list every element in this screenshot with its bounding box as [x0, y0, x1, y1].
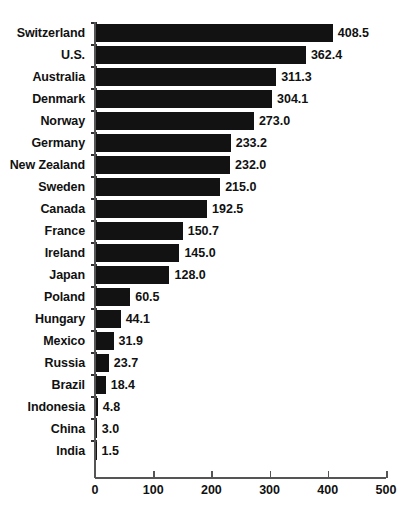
- bar: [95, 376, 106, 394]
- x-axis-tick: [328, 471, 330, 478]
- bar-value-label: 408.5: [338, 22, 369, 44]
- bar-row: Mexico31.9: [0, 330, 409, 352]
- category-label: New Zealand: [0, 154, 85, 176]
- bar-row: India1.5: [0, 440, 409, 462]
- bar-row: U.S.362.4: [0, 44, 409, 66]
- bar-value-label: 215.0: [225, 176, 256, 198]
- bar-row: Germany233.2: [0, 132, 409, 154]
- bar-row: France150.7: [0, 220, 409, 242]
- bar-row: Australia311.3: [0, 66, 409, 88]
- plot-area: Switzerland408.5U.S.362.4Australia311.3D…: [0, 22, 409, 477]
- bar: [95, 46, 306, 64]
- bar: [95, 244, 179, 262]
- category-label: India: [0, 440, 85, 462]
- x-axis-tick-label: 200: [181, 483, 241, 497]
- bar-row: Denmark304.1: [0, 88, 409, 110]
- bar-chart-figure: Switzerland408.5U.S.362.4Australia311.3D…: [0, 0, 409, 525]
- bar-value-label: 311.3: [281, 66, 312, 88]
- bar-value-label: 18.4: [111, 374, 135, 396]
- bar: [95, 310, 121, 328]
- bar-row: Indonesia4.8: [0, 396, 409, 418]
- bar-row: Norway273.0: [0, 110, 409, 132]
- category-label: Ireland: [0, 242, 85, 264]
- category-label: U.S.: [0, 44, 85, 66]
- x-axis-tick-label: 400: [298, 483, 358, 497]
- chart-title: [0, 0, 409, 1]
- category-label: Germany: [0, 132, 85, 154]
- bar: [95, 200, 207, 218]
- bar-value-label: 273.0: [259, 110, 290, 132]
- category-label: Canada: [0, 198, 85, 220]
- bar-row: Poland60.5: [0, 286, 409, 308]
- bar-value-label: 1.5: [102, 440, 119, 462]
- x-axis-tick-label: 100: [123, 483, 183, 497]
- x-axis-tick-label: 300: [240, 483, 300, 497]
- category-label: China: [0, 418, 85, 440]
- bar-value-label: 232.0: [235, 154, 266, 176]
- bar: [95, 68, 276, 86]
- bar-value-label: 4.8: [103, 396, 120, 418]
- category-label: France: [0, 220, 85, 242]
- category-label: Japan: [0, 264, 85, 286]
- category-label: Mexico: [0, 330, 85, 352]
- bar-value-label: 44.1: [126, 308, 150, 330]
- bar: [95, 134, 231, 152]
- bar-value-label: 60.5: [135, 286, 159, 308]
- bar-value-label: 233.2: [236, 132, 267, 154]
- bar-row: Switzerland408.5: [0, 22, 409, 44]
- category-label: Brazil: [0, 374, 85, 396]
- bar-row: Canada192.5: [0, 198, 409, 220]
- x-axis-tick: [386, 471, 388, 478]
- category-label: Australia: [0, 66, 85, 88]
- x-axis-tick: [270, 471, 272, 478]
- bar-row: New Zealand232.0: [0, 154, 409, 176]
- category-label: Switzerland: [0, 22, 85, 44]
- x-axis-tick: [153, 471, 155, 478]
- bar-value-label: 145.0: [184, 242, 215, 264]
- x-axis-tick-label: 500: [356, 483, 409, 497]
- bar: [95, 288, 130, 306]
- category-label: Sweden: [0, 176, 85, 198]
- category-label: Hungary: [0, 308, 85, 330]
- x-axis-line: [95, 477, 386, 479]
- bar-row: Sweden215.0: [0, 176, 409, 198]
- y-axis-line: [94, 22, 96, 478]
- category-label: Indonesia: [0, 396, 85, 418]
- bar-row: Hungary44.1: [0, 308, 409, 330]
- source-caption: [12, 513, 312, 523]
- bar-value-label: 150.7: [188, 220, 219, 242]
- bar-value-label: 3.0: [102, 418, 119, 440]
- bar: [95, 354, 109, 372]
- x-axis-tick-label: 0: [65, 483, 125, 497]
- bar: [95, 178, 220, 196]
- bar-value-label: 23.7: [114, 352, 138, 374]
- bar: [95, 156, 230, 174]
- bar-value-label: 192.5: [212, 198, 243, 220]
- bar-value-label: 31.9: [119, 330, 143, 352]
- category-label: Norway: [0, 110, 85, 132]
- bar-row: China3.0: [0, 418, 409, 440]
- bar-row: Brazil18.4: [0, 374, 409, 396]
- bar-value-label: 128.0: [174, 264, 205, 286]
- x-axis-tick: [211, 471, 213, 478]
- category-label: Denmark: [0, 88, 85, 110]
- bar: [95, 222, 183, 240]
- bar: [95, 24, 333, 42]
- bar-value-label: 304.1: [277, 88, 308, 110]
- bar: [95, 90, 272, 108]
- bar-row: Ireland145.0: [0, 242, 409, 264]
- bar: [95, 332, 114, 350]
- category-label: Russia: [0, 352, 85, 374]
- bar: [95, 112, 254, 130]
- bar-row: Russia23.7: [0, 352, 409, 374]
- bar: [95, 266, 169, 284]
- category-label: Poland: [0, 286, 85, 308]
- bar-row: Japan128.0: [0, 264, 409, 286]
- bar-value-label: 362.4: [311, 44, 342, 66]
